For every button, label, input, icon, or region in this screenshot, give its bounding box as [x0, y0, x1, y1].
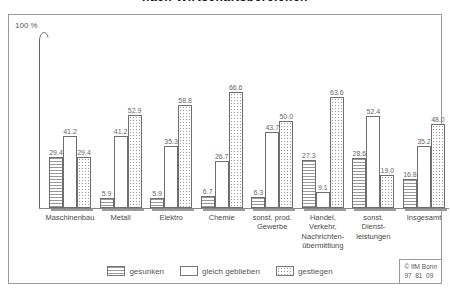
bar-value-label: 9.1 [318, 184, 328, 191]
chart-container: nach Wirtschaftsbereichen 100 % 29.441.2… [0, 0, 450, 295]
bar-wrap: 66.6 [229, 84, 243, 209]
legend-item-gestiegen: gestiegen [276, 266, 333, 276]
bar-value-label: 26.7 [215, 153, 229, 160]
chart-frame: 100 % 29.441.229.45.941.252.95.935.358.8… [8, 14, 442, 284]
bar-gleich-geblieben [114, 136, 128, 208]
bar-gleich-geblieben [265, 132, 279, 209]
bar-value-label: 27.3 [302, 152, 316, 159]
bar-wrap: 6.7 [201, 188, 215, 208]
bar-gleich-geblieben [417, 146, 431, 208]
bar-value-label: 35.2 [417, 138, 431, 145]
bar-value-label: 6.3 [253, 189, 263, 196]
bar-wrap: 58.8 [178, 97, 192, 208]
category-label: Chemie [197, 213, 247, 251]
bar-wrap: 29.4 [49, 149, 63, 208]
bar-gesunken [403, 179, 417, 208]
bar-wrap: 43.7 [265, 124, 279, 209]
bar-value-label: 43.7 [265, 124, 279, 131]
bar-group: 28.652.419.0 [352, 108, 394, 208]
bar-gesunken [352, 158, 366, 208]
category-label: Metall [96, 213, 146, 251]
legend-swatch-plain [180, 266, 198, 276]
category-label: Handel, Verkehr, Nachrichten- übermittlu… [298, 213, 348, 251]
bar-group: 27.39.163.6 [302, 89, 344, 208]
bar-gestiegen [229, 92, 243, 209]
source-stamp-line1: © IfM Bonn [404, 263, 437, 270]
bar-gestiegen [431, 124, 445, 208]
source-stamp-line2: 97 81 09 [404, 272, 433, 279]
bar-value-label: 66.6 [229, 84, 243, 91]
bar-value-label: 48.0 [431, 116, 445, 123]
category-label: Elektro [146, 213, 196, 251]
legend: gesunkengleich gebliebengestiegen [69, 266, 371, 276]
bar-wrap: 26.7 [215, 153, 229, 208]
bar-gestiegen [380, 175, 394, 208]
bar-group: 5.935.358.8 [150, 97, 192, 208]
source-stamp: © IfM Bonn 97 81 09 [399, 259, 441, 284]
bar-gestiegen [279, 121, 293, 209]
bar-value-label: 41.2 [63, 128, 77, 135]
bar-group: 6.726.766.6 [201, 84, 243, 209]
chart-title-cropped: nach Wirtschaftsbereichen [0, 0, 450, 4]
legend-swatch-dots [276, 266, 294, 276]
bar-gesunken [49, 157, 63, 208]
bar-wrap: 19.0 [380, 167, 394, 208]
plot-area: 29.441.229.45.941.252.95.935.358.86.726.… [39, 33, 449, 209]
bar-wrap: 27.3 [302, 152, 316, 208]
bar-value-label: 52.9 [128, 107, 142, 114]
bar-wrap: 35.3 [164, 138, 178, 208]
legend-swatch-horizontal-lines [107, 266, 125, 276]
bar-value-label: 29.4 [77, 149, 91, 156]
bar-group: 29.441.229.4 [49, 128, 91, 208]
bar-value-label: 29.4 [49, 149, 63, 156]
bar-wrap: 52.4 [366, 108, 380, 208]
legend-item-gesunken: gesunken [107, 266, 164, 276]
bar-value-label: 58.8 [178, 97, 192, 104]
bar-wrap: 9.1 [316, 184, 330, 208]
category-label: Maschinenbau [45, 213, 95, 251]
bar-gleich-geblieben [63, 136, 77, 208]
bar-wrap: 6.3 [251, 189, 265, 208]
legend-item-gleich-geblieben: gleich geblieben [180, 266, 260, 276]
bar-gestiegen [178, 105, 192, 208]
bar-wrap: 41.2 [63, 128, 77, 208]
bar-value-label: 5.9 [102, 190, 112, 197]
bar-gesunken [302, 160, 316, 208]
bar-wrap: 41.2 [114, 128, 128, 208]
bar-gesunken [251, 197, 265, 208]
bar-group: 5.941.252.9 [100, 107, 142, 208]
bar-wrap: 35.2 [417, 138, 431, 208]
bar-value-label: 63.6 [330, 89, 344, 96]
bar-wrap: 50.0 [279, 113, 293, 209]
category-labels: MaschinenbauMetallElektroChemiesonst. pr… [39, 213, 449, 251]
bar-value-label: 5.9 [152, 190, 162, 197]
bar-value-label: 19.0 [381, 167, 395, 174]
bar-gleich-geblieben [164, 146, 178, 208]
bar-value-label: 50.0 [279, 113, 293, 120]
bar-wrap: 5.9 [100, 190, 114, 208]
bar-group: 6.343.750.0 [251, 113, 293, 209]
bar-value-label: 52.4 [367, 108, 381, 115]
bar-group: 16.835.248.0 [403, 116, 445, 208]
bar-wrap: 28.6 [352, 150, 366, 208]
bar-gestiegen [330, 97, 344, 208]
bar-gleich-geblieben [316, 192, 330, 208]
bar-gesunken [150, 198, 164, 208]
bar-gesunken [100, 198, 114, 208]
category-label: sonst. prod. Gewerbe [247, 213, 297, 251]
bar-wrap: 5.9 [150, 190, 164, 208]
bar-value-label: 16.8 [403, 171, 417, 178]
bar-value-label: 28.6 [353, 150, 367, 157]
bar-value-label: 35.3 [164, 138, 178, 145]
category-label: Insgesamt [399, 213, 449, 251]
bar-value-label: 6.7 [203, 188, 213, 195]
bar-gleich-geblieben [366, 116, 380, 208]
bar-gestiegen [128, 115, 142, 208]
bar-value-label: 41.2 [114, 128, 128, 135]
bar-wrap: 52.9 [128, 107, 142, 208]
bar-gesunken [201, 196, 215, 208]
legend-label: gleich geblieben [202, 267, 260, 276]
category-label: sonst. Dienst- leistungen [348, 213, 398, 251]
legend-label: gesunken [129, 267, 164, 276]
bar-wrap: 48.0 [431, 116, 445, 208]
